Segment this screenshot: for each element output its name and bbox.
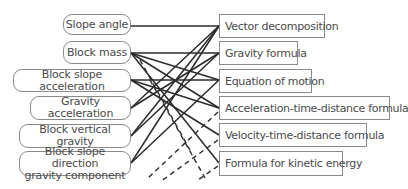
node-block-slope-direction-gravity-component: Block slope direction gravity component [19, 151, 131, 176]
node-gravity-acceleration: Gravity acceleration [30, 96, 131, 120]
node-label: Slope angle [66, 19, 128, 31]
node-label: Vector decomposition [225, 20, 338, 33]
node-label: Block mass [67, 47, 127, 59]
node-equation-of-motion: Equation of motion [219, 69, 312, 93]
node-label: Velocity-time-distance formula [225, 129, 384, 142]
node-vector-decomposition: Vector decomposition [219, 14, 325, 38]
node-label: Formula for kinetic energy [225, 157, 362, 170]
node-acceleration-time-distance-formula: Acceleration-time-distance formula [219, 96, 390, 120]
node-label-line2: gravity component [25, 170, 126, 182]
node-block-mass: Block mass [63, 41, 131, 64]
node-gravity-formula: Gravity formula [219, 41, 298, 65]
node-velocity-time-distance-formula: Velocity-time-distance formula [219, 123, 367, 147]
node-label-line1: Block slope direction [20, 146, 130, 170]
node-label: Equation of motion [225, 75, 324, 88]
node-label: Gravity formula [225, 47, 307, 60]
node-slope-angle: Slope angle [63, 14, 131, 35]
node-formula-for-kinetic-energy: Formula for kinetic energy [219, 151, 343, 176]
node-label: Gravity acceleration [31, 96, 130, 120]
node-label: Block slope acceleration [14, 69, 130, 93]
node-block-slope-acceleration: Block slope acceleration [13, 69, 131, 92]
node-label: Acceleration-time-distance formula [225, 102, 408, 115]
